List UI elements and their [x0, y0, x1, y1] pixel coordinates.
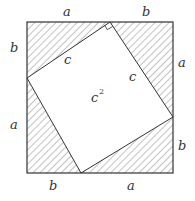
label-hypotenuse-c-left: c — [64, 52, 72, 67]
label-top-b: b — [142, 4, 150, 19]
label-top-a: a — [63, 4, 71, 19]
pythagorean-proof-diagram: a b b a a b b a c c c 2 — [0, 0, 195, 201]
label-left-b: b — [10, 40, 18, 55]
label-right-a: a — [178, 55, 186, 70]
label-left-a: a — [10, 117, 18, 132]
label-area-c: c — [91, 90, 99, 105]
label-right-b: b — [178, 138, 186, 153]
label-area-exponent: 2 — [99, 87, 104, 96]
label-bottom-b: b — [49, 178, 57, 193]
label-bottom-a: a — [127, 178, 135, 193]
label-hypotenuse-c-right: c — [129, 69, 137, 84]
